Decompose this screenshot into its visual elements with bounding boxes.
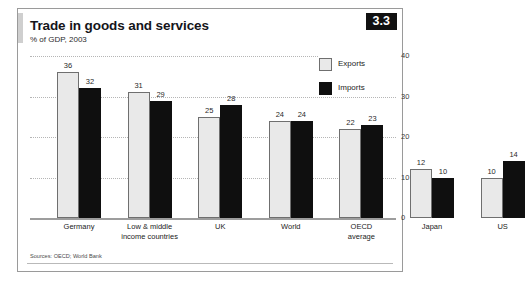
bar-group: 1014US xyxy=(481,56,525,218)
bar-group: 2424World xyxy=(269,56,313,218)
footer-divider xyxy=(27,263,393,264)
chart-plot-area: 010203040 3632Germany3129Low & middleinc… xyxy=(30,56,374,218)
bar-value-label: 28 xyxy=(216,94,246,103)
source-note: Sources: OECD; World Bank xyxy=(30,253,102,259)
title-accent-bar xyxy=(18,13,23,43)
x-axis-category-label: Low & middleincome countries xyxy=(111,222,189,241)
bar-imports: 29 xyxy=(150,101,172,218)
x-axis-baseline xyxy=(30,218,396,220)
page-subtitle: % of GDP, 2003 xyxy=(30,35,87,44)
figure-panel: Trade in goods and services % of GDP, 20… xyxy=(17,8,403,272)
bar-value-label: 36 xyxy=(53,61,83,70)
bar-exports: 12 xyxy=(410,169,432,218)
bar-exports: 22 xyxy=(339,129,361,218)
x-axis-category-label: UK xyxy=(181,222,259,232)
bar-imports: 24 xyxy=(291,121,313,218)
x-axis-category-label: Japan xyxy=(393,222,471,232)
page-title: Trade in goods and services xyxy=(30,18,209,33)
bar-imports: 10 xyxy=(432,178,454,219)
bar-group: 3129Low & middleincome countries xyxy=(128,56,172,218)
bar-imports: 14 xyxy=(503,161,525,218)
bar-value-label: 10 xyxy=(428,167,458,176)
bar-imports: 28 xyxy=(220,105,242,218)
legend-swatch-imports xyxy=(319,82,332,95)
x-axis-category-label: OECDaverage xyxy=(322,222,400,241)
bar-group: 2223OECDaverage xyxy=(339,56,383,218)
bar-value-label: 29 xyxy=(146,90,176,99)
bar-exports: 31 xyxy=(128,92,150,218)
bar-group: 3632Germany xyxy=(57,56,101,218)
bar-value-label: 32 xyxy=(75,77,105,86)
x-axis-category-label: Germany xyxy=(40,222,118,232)
bar-imports: 23 xyxy=(361,125,383,218)
bar-value-label: 24 xyxy=(287,110,317,119)
bar-value-label: 14 xyxy=(499,150,529,159)
bar-exports: 24 xyxy=(269,121,291,218)
figure-number-badge: 3.3 xyxy=(366,13,397,30)
bar-value-label: 23 xyxy=(357,114,387,123)
bar-group: 2528UK xyxy=(198,56,242,218)
bar-exports: 10 xyxy=(481,178,503,219)
bar-exports: 36 xyxy=(57,72,79,218)
legend-swatch-exports xyxy=(319,58,332,71)
x-axis-category-label: US xyxy=(464,222,529,232)
x-axis-category-label: World xyxy=(252,222,330,232)
bar-exports: 25 xyxy=(198,117,220,218)
bar-group: 1210Japan xyxy=(410,56,454,218)
bar-imports: 32 xyxy=(79,88,101,218)
legend-label-imports: Imports xyxy=(338,83,365,92)
legend-label-exports: Exports xyxy=(338,59,365,68)
